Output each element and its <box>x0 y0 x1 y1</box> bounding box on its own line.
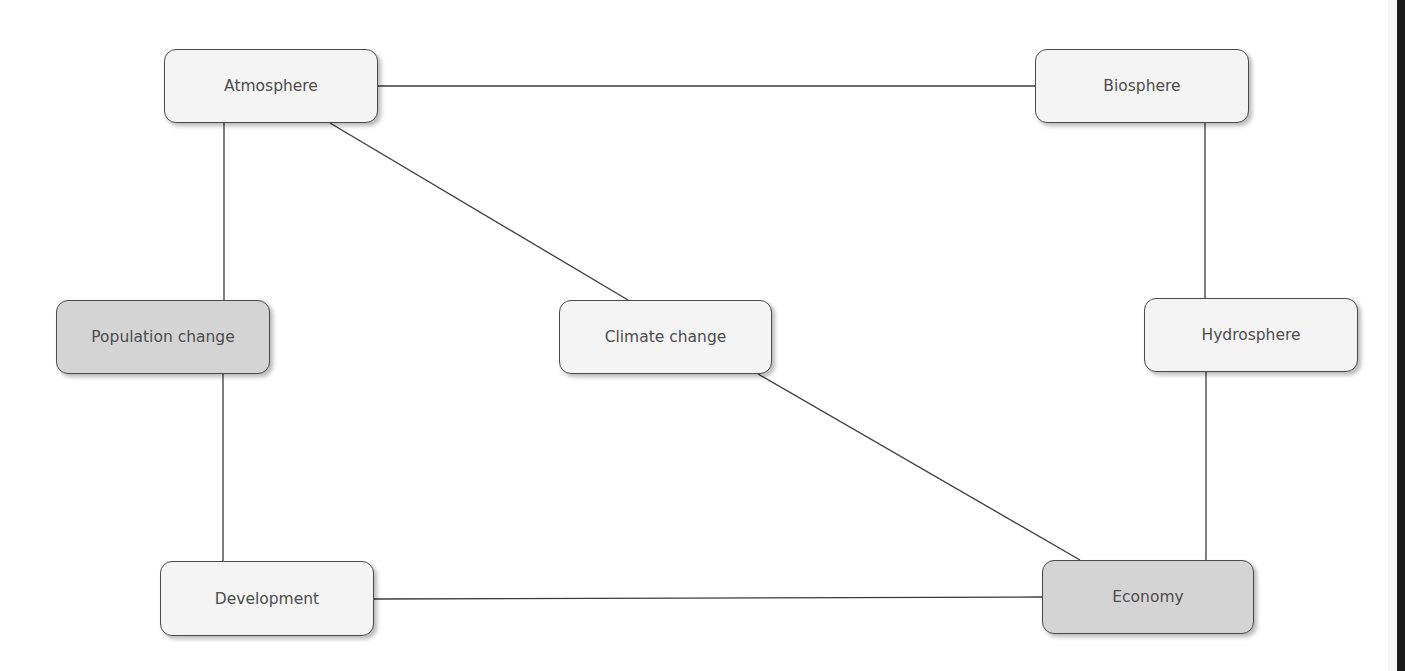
node-label: Biosphere <box>1103 77 1180 95</box>
node-label: Atmosphere <box>224 77 318 95</box>
edge-development-economy <box>374 597 1042 599</box>
edge-climate-economy <box>758 374 1080 560</box>
page-edge-border <box>1397 0 1405 671</box>
node-label: Hydrosphere <box>1201 326 1300 344</box>
node-climate-change[interactable]: Climate change <box>559 300 772 374</box>
node-population-change[interactable]: Population change <box>56 300 270 374</box>
node-economy[interactable]: Economy <box>1042 560 1254 634</box>
edge-atmosphere-climate <box>330 123 628 300</box>
page-edge-shade <box>1388 0 1397 671</box>
node-label: Economy <box>1112 588 1183 606</box>
node-hydrosphere[interactable]: Hydrosphere <box>1144 298 1358 372</box>
node-development[interactable]: Development <box>160 561 374 636</box>
node-label: Climate change <box>605 328 727 346</box>
node-label: Development <box>215 590 319 608</box>
node-biosphere[interactable]: Biosphere <box>1035 49 1249 123</box>
node-label: Population change <box>91 328 234 346</box>
node-atmosphere[interactable]: Atmosphere <box>164 49 378 123</box>
